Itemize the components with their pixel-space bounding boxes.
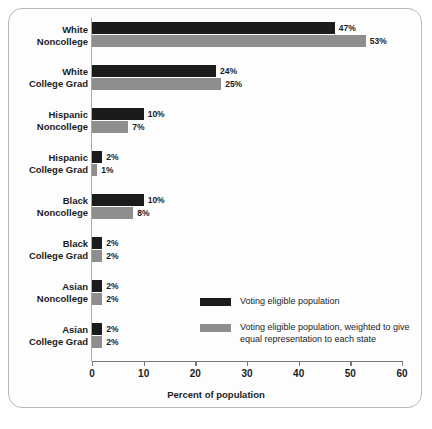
bar-value-label: 2% — [106, 293, 118, 305]
x-tick — [92, 361, 93, 366]
category-label: WhiteNoncollege — [10, 24, 88, 47]
x-tick — [247, 361, 248, 366]
bar-value-label: 24% — [220, 65, 237, 77]
bar — [92, 121, 128, 133]
bar-value-label: 2% — [106, 280, 118, 292]
x-tick-label: 0 — [77, 368, 107, 379]
category-label: HispanicCollege Grad — [10, 152, 88, 175]
bar — [92, 151, 102, 163]
x-tick-label: 40 — [284, 368, 314, 379]
x-tick-label: 20 — [180, 368, 210, 379]
legend-swatch-icon — [200, 324, 231, 332]
category-label: AsianNoncollege — [10, 281, 88, 304]
bar-value-label: 47% — [339, 22, 356, 34]
bar-value-label: 7% — [132, 121, 144, 133]
bar — [92, 323, 102, 335]
x-tick — [350, 361, 351, 366]
category-label: AsianCollege Grad — [10, 324, 88, 347]
bar — [92, 250, 102, 262]
bar — [92, 336, 102, 348]
x-tick — [144, 361, 145, 366]
bar-value-label: 10% — [148, 108, 165, 120]
bar — [92, 108, 144, 120]
x-tick-label: 50 — [335, 368, 365, 379]
bar-value-label: 2% — [106, 336, 118, 348]
legend-item: Voting eligible population, weighted to … — [200, 322, 415, 345]
bar-value-label: 8% — [137, 207, 149, 219]
legend-swatch-icon — [200, 298, 231, 306]
x-tick-label: 60 — [387, 368, 417, 379]
x-tick — [299, 361, 300, 366]
legend-label: Voting eligible population, weighted to … — [240, 322, 415, 345]
legend-label: Voting eligible population — [240, 296, 415, 308]
bar — [92, 65, 216, 77]
chart-plot-area: WhiteNoncollege WhiteCollege Grad Hispan… — [0, 0, 432, 429]
category-label: WhiteCollege Grad — [10, 66, 88, 89]
x-tick — [402, 361, 403, 366]
legend-item: Voting eligible population — [200, 296, 415, 314]
bar-value-label: 1% — [101, 164, 113, 176]
bar-value-label: 2% — [106, 323, 118, 335]
bar — [92, 280, 102, 292]
bar — [92, 207, 133, 219]
bar — [92, 237, 102, 249]
bar-value-label: 25% — [225, 78, 242, 90]
bar — [92, 293, 102, 305]
bar — [92, 194, 144, 206]
x-tick — [195, 361, 196, 366]
category-label: BlackNoncollege — [10, 195, 88, 218]
bar — [92, 22, 335, 34]
x-axis-title: Percent of population — [0, 389, 432, 400]
bar — [92, 78, 221, 90]
x-tick-label: 30 — [232, 368, 262, 379]
x-tick-label: 10 — [129, 368, 159, 379]
bar-value-label: 2% — [106, 250, 118, 262]
bar — [92, 35, 366, 47]
bar — [92, 164, 97, 176]
bar-value-label: 53% — [370, 35, 387, 47]
bar-value-label: 2% — [106, 237, 118, 249]
chart-legend: Voting eligible population Voting eligib… — [200, 296, 415, 353]
category-label: HispanicNoncollege — [10, 109, 88, 132]
bar-value-label: 2% — [106, 151, 118, 163]
category-label: BlackCollege Grad — [10, 238, 88, 261]
bar-value-label: 10% — [148, 194, 165, 206]
